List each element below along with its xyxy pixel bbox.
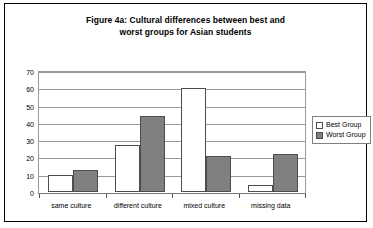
x-tick-1	[106, 194, 107, 198]
chart-legend: Best GroupWorst Group	[312, 116, 371, 144]
legend-label: Worst Group	[326, 131, 366, 139]
bar-same-culture-worst-group	[73, 170, 98, 192]
legend-item-worst-group: Worst Group	[316, 130, 366, 140]
x-tick-label-missing-data: missing data	[238, 201, 305, 210]
x-tick-3	[239, 194, 240, 198]
y-axis-tick-labels: 010203040506070	[10, 71, 34, 194]
bar-same-culture-best-group	[48, 175, 73, 192]
chart-title-line-2: worst groups for Asian students	[5, 26, 366, 38]
bar-missing-data-worst-group	[273, 154, 298, 192]
bar-different-culture-worst-group	[140, 116, 165, 192]
x-axis-tick-labels: same culturedifferent culturemixed cultu…	[38, 201, 306, 215]
y-tick-label-50: 50	[26, 103, 34, 110]
x-tick-label-different-culture: different culture	[105, 201, 172, 210]
bar-different-culture-best-group	[115, 145, 140, 192]
y-tick-label-30: 30	[26, 138, 34, 145]
legend-label: Best Group	[326, 121, 361, 129]
bars-layer	[40, 73, 304, 192]
chart-title: Figure 4a: Cultural differences between …	[5, 14, 366, 38]
y-tick-label-10: 10	[26, 172, 34, 179]
x-tick-2	[172, 194, 173, 198]
x-tick-label-same-culture: same culture	[38, 201, 105, 210]
x-tick-0	[39, 194, 40, 198]
chart-title-line-1: Figure 4a: Cultural differences between …	[5, 14, 366, 26]
x-tick-label-mixed-culture: mixed culture	[171, 201, 238, 210]
bar-mixed-culture-best-group	[181, 88, 206, 192]
x-tick-4	[305, 194, 306, 198]
legend-swatch-icon	[316, 122, 323, 129]
y-tick-label-70: 70	[26, 69, 34, 76]
x-axis-ticks	[38, 194, 306, 199]
y-tick-label-20: 20	[26, 155, 34, 162]
y-tick-label-60: 60	[26, 86, 34, 93]
figure-frame: Figure 4a: Cultural differences between …	[4, 3, 367, 222]
bar-missing-data-best-group	[248, 185, 273, 192]
y-tick-label-0: 0	[30, 190, 34, 197]
legend-item-best-group: Best Group	[316, 120, 366, 130]
plot-area	[38, 71, 306, 194]
legend-swatch-icon	[316, 132, 323, 139]
plot-wrapper: 010203040506070 same culturedifferent cu…	[38, 71, 306, 194]
y-tick-label-40: 40	[26, 120, 34, 127]
bar-mixed-culture-worst-group	[206, 156, 231, 192]
